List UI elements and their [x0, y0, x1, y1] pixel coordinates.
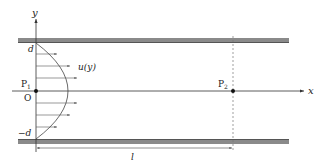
- y-axis-label: y: [31, 7, 38, 18]
- d-bottom-label: −d: [18, 128, 32, 138]
- p2-point: [231, 89, 235, 93]
- channel-flow-diagram: y x O P1 P2 d −d u(y) l: [0, 0, 321, 167]
- origin-point: [34, 89, 38, 93]
- origin-label: O: [24, 93, 31, 103]
- length-label: l: [131, 152, 134, 162]
- x-axis-label: x: [308, 85, 314, 96]
- velocity-arrows: [36, 54, 77, 127]
- d-top-label: d: [28, 44, 34, 54]
- velocity-label: u(y): [78, 62, 96, 72]
- p1-label: P1: [21, 79, 31, 90]
- p2-label: P2: [218, 79, 228, 90]
